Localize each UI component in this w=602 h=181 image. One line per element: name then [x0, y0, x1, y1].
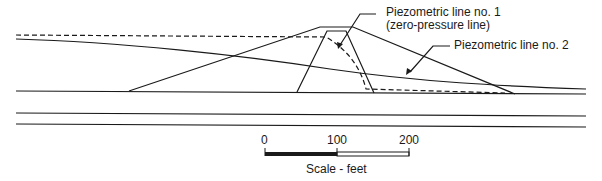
core-outline [297, 31, 374, 93]
arrowhead-piezo2 [406, 68, 412, 75]
ground-line [16, 91, 586, 94]
scale-caption: Scale - feet [306, 162, 367, 176]
label-piezo1-subtitle: (zero-pressure line) [386, 19, 501, 32]
scale-label-100: 100 [327, 133, 347, 147]
scale-bar-white-segment [337, 152, 409, 156]
piezometric-line-1 [16, 35, 505, 93]
foundation-line-2 [16, 124, 586, 127]
scale-label-0: 0 [261, 133, 268, 147]
scale-bar-black-segment [265, 152, 337, 156]
label-piezometric-line-1: Piezometric line no. 1 (zero-pressure li… [386, 6, 501, 32]
label-piezometric-line-2: Piezometric line no. 2 [454, 39, 569, 52]
scale-label-200: 200 [399, 133, 419, 147]
foundation-line-1 [16, 113, 586, 116]
dam-cross-section-diagram [0, 0, 602, 181]
